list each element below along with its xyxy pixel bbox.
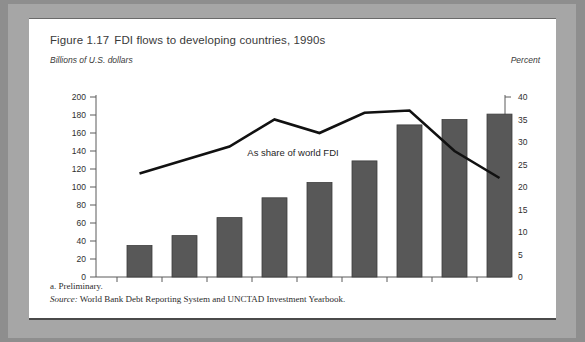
right-axis-tick-labels: 0 5 10 15 20 25 30 35 40 bbox=[518, 92, 528, 282]
bar-1992 bbox=[172, 236, 197, 277]
left-axis-tick-labels: 0 20 40 60 80 100 120 140 160 180 200 bbox=[72, 92, 86, 282]
left-axis: 0 20 40 60 80 100 120 140 160 180 200 bbox=[72, 92, 96, 282]
figure-title-text: FDI flows to developing countries, 1990s bbox=[114, 34, 325, 46]
footnote-preliminary: a. Preliminary. bbox=[50, 280, 345, 293]
bar-series bbox=[127, 114, 512, 277]
source-text: World Bank Debt Reporting System and UNC… bbox=[80, 294, 346, 304]
left-tick-200: 200 bbox=[72, 92, 86, 102]
left-axis-ticks bbox=[90, 97, 96, 277]
line-annotation-label: As share of world FDI bbox=[247, 147, 338, 158]
left-tick-160: 160 bbox=[72, 128, 86, 138]
left-tick-80: 80 bbox=[77, 200, 87, 210]
chart-svg: 0 20 40 60 80 100 120 140 160 180 200 bbox=[50, 71, 537, 283]
bar-1993 bbox=[217, 218, 242, 277]
figure-title: Figure 1.17FDI flows to developing count… bbox=[50, 34, 325, 46]
right-tick-30: 30 bbox=[518, 137, 528, 147]
figure-card: Figure 1.17FDI flows to developing count… bbox=[29, 18, 556, 320]
right-tick-10: 10 bbox=[518, 227, 528, 237]
right-tick-20: 20 bbox=[518, 182, 528, 192]
left-tick-60: 60 bbox=[77, 218, 87, 228]
right-tick-5: 5 bbox=[518, 250, 523, 260]
bar-1995 bbox=[307, 183, 332, 278]
right-tick-35: 35 bbox=[518, 115, 528, 125]
left-tick-180: 180 bbox=[72, 110, 86, 120]
bar-1999 bbox=[487, 114, 512, 277]
right-tick-0: 0 bbox=[518, 272, 523, 282]
y-axis-label-left: Billions of U.S. dollars bbox=[50, 55, 133, 65]
plot-area: 0 20 40 60 80 100 120 140 160 180 200 bbox=[50, 71, 537, 283]
left-tick-20: 20 bbox=[77, 254, 87, 264]
y-axis-label-right: Percent bbox=[511, 55, 540, 65]
footnote-source: Source: World Bank Debt Reporting System… bbox=[50, 293, 345, 306]
left-tick-40: 40 bbox=[77, 236, 87, 246]
left-tick-120: 120 bbox=[72, 164, 86, 174]
source-label: Source: bbox=[50, 294, 78, 304]
right-tick-25: 25 bbox=[518, 160, 528, 170]
figure-root: Figure 1.17FDI flows to developing count… bbox=[0, 0, 585, 342]
left-tick-100: 100 bbox=[72, 182, 86, 192]
figure-footnotes: a. Preliminary. Source: World Bank Debt … bbox=[50, 280, 345, 306]
right-tick-40: 40 bbox=[518, 92, 528, 102]
bar-1994 bbox=[262, 198, 287, 277]
bar-1997 bbox=[397, 125, 422, 277]
bar-1996 bbox=[352, 161, 377, 277]
bar-1991 bbox=[127, 246, 152, 278]
right-tick-15: 15 bbox=[518, 205, 528, 215]
figure-number: Figure 1.17 bbox=[50, 34, 109, 46]
left-tick-140: 140 bbox=[72, 146, 86, 156]
